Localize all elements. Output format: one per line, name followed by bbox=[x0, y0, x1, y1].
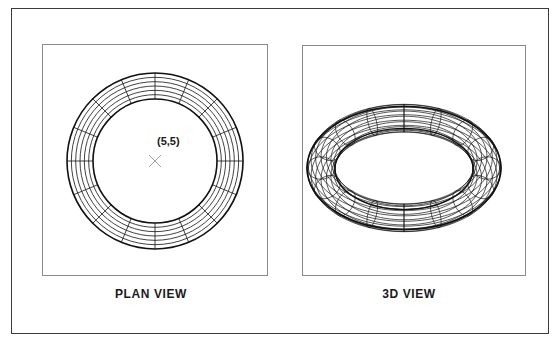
plan-view-caption: PLAN VIEW bbox=[115, 287, 187, 301]
plan-view-panel bbox=[42, 44, 268, 276]
center-coordinate-label: (5,5) bbox=[157, 135, 180, 147]
3d-view-panel bbox=[302, 45, 526, 276]
3d-view-caption: 3D VIEW bbox=[382, 287, 436, 301]
